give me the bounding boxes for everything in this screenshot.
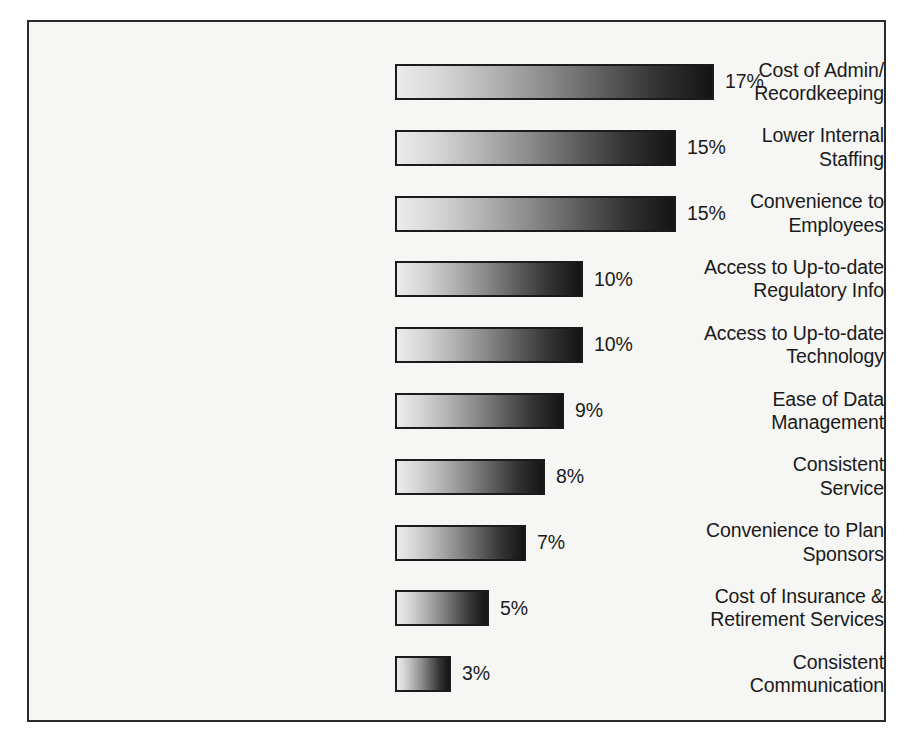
bar[interactable]	[395, 656, 451, 692]
bar-category-label: Cost of Insurance & Retirement Services	[554, 585, 884, 632]
bar-row: Cost of Admin/ Recordkeeping17%	[29, 62, 884, 102]
bar-row: Cost of Insurance & Retirement Services5…	[29, 588, 884, 628]
bar-row: Access to Up-to-date Regulatory Info10%	[29, 259, 884, 299]
bar-value-label: 17%	[725, 72, 764, 92]
bar-category-label: Consistent Communication	[554, 651, 884, 698]
bar-row: Ease of Data Management9%	[29, 391, 884, 431]
bar[interactable]	[395, 393, 564, 429]
bar-track: 9%	[395, 391, 603, 431]
bar-track: 8%	[395, 457, 584, 497]
bar-value-label: 15%	[687, 204, 726, 224]
bar-category-label: Consistent Service	[554, 453, 884, 500]
bar-value-label: 7%	[537, 533, 565, 553]
bar[interactable]	[395, 327, 583, 363]
bar[interactable]	[395, 459, 545, 495]
bar-track: 10%	[395, 325, 633, 365]
bar-row: Lower Internal Staffing15%	[29, 128, 884, 168]
bar-track: 17%	[395, 62, 764, 102]
bar-value-label: 10%	[594, 270, 633, 290]
bar-value-label: 10%	[594, 335, 633, 355]
bar-value-label: 8%	[556, 467, 584, 487]
bar-track: 5%	[395, 588, 528, 628]
bar[interactable]	[395, 525, 526, 561]
bar[interactable]	[395, 64, 714, 100]
bar-track: 3%	[395, 654, 490, 694]
bar-category-label: Ease of Data Management	[554, 388, 884, 435]
chart-frame: Cost of Admin/ Recordkeeping17%Lower Int…	[27, 20, 886, 722]
bar-row: Convenience to Employees15%	[29, 194, 884, 234]
bar-row: Consistent Service8%	[29, 457, 884, 497]
bar[interactable]	[395, 590, 489, 626]
bar-value-label: 15%	[687, 138, 726, 158]
bar-value-label: 3%	[462, 664, 490, 684]
bar-track: 15%	[395, 128, 726, 168]
bar-chart-plot-area: Cost of Admin/ Recordkeeping17%Lower Int…	[29, 22, 884, 720]
bar-row: Access to Up-to-date Technology10%	[29, 325, 884, 365]
bar-value-label: 5%	[500, 599, 528, 619]
bar[interactable]	[395, 130, 676, 166]
bar-track: 7%	[395, 523, 565, 563]
bar[interactable]	[395, 196, 676, 232]
bar-track: 10%	[395, 259, 633, 299]
bar-value-label: 9%	[575, 401, 603, 421]
bar-category-label: Convenience to Plan Sponsors	[554, 519, 884, 566]
bar-row: Convenience to Plan Sponsors7%	[29, 523, 884, 563]
bar-track: 15%	[395, 194, 726, 234]
bar-row: Consistent Communication3%	[29, 654, 884, 694]
bar[interactable]	[395, 261, 583, 297]
